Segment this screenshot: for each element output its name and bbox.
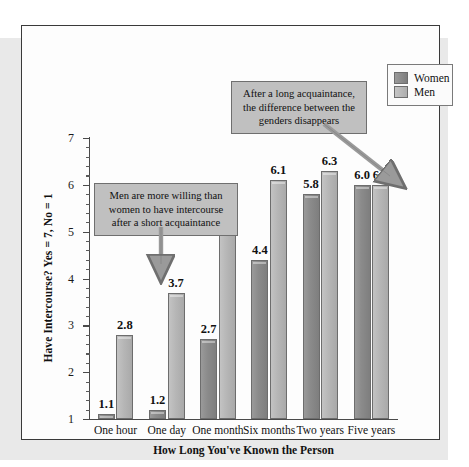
category-label-six-months: Six months (243, 424, 295, 436)
y-tick-major: 1 (83, 419, 90, 420)
legend-label-men: Men (414, 86, 435, 98)
y-tick-minor (86, 288, 91, 289)
legend-item-women: Women (394, 72, 446, 84)
bar-value-label: 1.1 (99, 397, 115, 412)
y-tick-minor (86, 147, 91, 148)
legend-label-women: Women (414, 72, 449, 84)
y-tick-minor (86, 344, 91, 345)
bar-value-label: 6.3 (322, 154, 338, 169)
y-tick-major: 7 (83, 138, 90, 139)
x-axis-title: How Long You've Known the Person (90, 444, 397, 456)
bar-top-highlight (100, 416, 113, 418)
y-axis-title: Have Intercourse? Yes = 7, No = 1 (42, 193, 54, 362)
y-tick-major: 5 (83, 232, 90, 233)
bar-value-label: 6.0 (354, 168, 370, 183)
y-tick-label: 2 (68, 365, 74, 380)
y-tick-label: 6 (68, 177, 74, 192)
y-tick-major: 3 (83, 325, 90, 326)
y-tick-minor (86, 297, 91, 298)
bar-value-label: 5.8 (303, 177, 319, 192)
bar-top-highlight (356, 187, 369, 189)
bar-top-highlight (118, 337, 131, 339)
y-tick-minor (86, 241, 91, 242)
chart-legend: Women Men (387, 64, 453, 106)
category-label-one-month: One month (192, 424, 243, 436)
figure-frame: Have Intercourse? Yes = 7, No = 1 123456… (21, 25, 440, 440)
bar-top-highlight (305, 196, 318, 198)
bar-top-highlight (374, 187, 387, 189)
bar-value-label: 2.8 (117, 318, 133, 333)
y-tick-major: 4 (83, 279, 90, 280)
bar-women-five-years: 6.0 (354, 185, 371, 419)
bar-top-highlight (323, 173, 336, 175)
bar-men-one-day: 3.7 (168, 293, 185, 419)
legend-item-men: Men (394, 86, 446, 98)
y-tick-major: 2 (83, 372, 90, 373)
bar-men-two-years: 6.3 (321, 171, 338, 419)
y-tick-minor (86, 194, 91, 195)
y-tick-minor (86, 410, 91, 411)
annotation-callout-long-acquaintance: After a long acquaintance, the differenc… (231, 81, 367, 134)
bar-top-highlight (151, 412, 164, 414)
y-tick-minor (86, 157, 91, 158)
category-label-five-years: Five years (348, 424, 396, 436)
bar-value-label: 3.7 (168, 276, 184, 291)
bar-women-two-years: 5.8 (303, 194, 320, 419)
bar-value-label: 4.4 (252, 243, 268, 258)
y-tick-minor (86, 391, 91, 392)
y-tick-minor (86, 335, 91, 336)
y-tick-minor (86, 316, 91, 317)
bar-women-six-months: 4.4 (251, 260, 268, 419)
bar-women-one-hour: 1.1 (98, 414, 115, 419)
y-tick-minor (86, 204, 91, 205)
y-tick-minor (86, 260, 91, 261)
y-tick-label: 7 (68, 131, 74, 146)
bar-value-label: 6.1 (271, 163, 287, 178)
y-tick-minor (86, 353, 91, 354)
bar-women-one-month: 2.7 (200, 339, 217, 419)
bar-women-one-day: 1.2 (149, 410, 166, 419)
category-label-two-years: Two years (297, 424, 344, 436)
bar-value-label: 1.2 (150, 393, 166, 408)
y-tick-minor (86, 307, 91, 308)
y-tick-minor (86, 400, 91, 401)
y-tick-minor (86, 222, 91, 223)
y-tick-minor (86, 175, 91, 176)
category-label-one-day: One day (147, 424, 186, 436)
bar-top-highlight (202, 341, 215, 343)
bar-men-six-months: 6.1 (270, 180, 287, 419)
y-tick-label: 1 (68, 412, 74, 427)
women-swatch-icon (394, 72, 408, 84)
bar-value-label: 2.7 (201, 322, 217, 337)
y-tick-major: 6 (83, 185, 90, 186)
bar-top-highlight (170, 295, 183, 297)
y-tick-minor (86, 363, 91, 364)
y-tick-label: 5 (68, 224, 74, 239)
x-axis-line (89, 419, 398, 420)
bar-men-one-hour: 2.8 (116, 335, 133, 419)
annotation-callout-short-acquaintance: Men are more willing than women to have … (94, 183, 238, 236)
bar-value-label: 6.0 (373, 168, 389, 183)
y-tick-minor (86, 166, 91, 167)
bar-men-five-years: 6.0 (372, 185, 389, 419)
bar-top-highlight (253, 262, 266, 264)
men-swatch-icon (394, 86, 408, 98)
y-tick-label: 3 (68, 318, 74, 333)
y-tick-minor (86, 250, 91, 251)
y-tick-label: 4 (68, 271, 74, 286)
y-tick-minor (86, 382, 91, 383)
bar-top-highlight (272, 182, 285, 184)
bar-men-one-month: 5.0 (219, 232, 236, 419)
plot-area: 1234567 1.12.81.23.72.75.04.46.15.86.36.… (90, 138, 397, 419)
y-tick-minor (86, 213, 91, 214)
y-tick-minor (86, 269, 91, 270)
category-label-one-hour: One hour (94, 424, 137, 436)
